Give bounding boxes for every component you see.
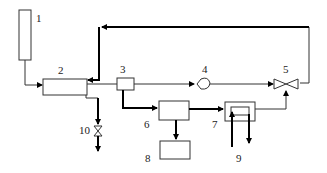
component-5-valve-icon-right [286,79,298,89]
recycle-line-5-to-top [300,27,309,83]
line-7-to-5 [255,91,286,109]
label-6: 6 [144,118,150,130]
component-6-box [159,101,189,120]
process-diagram: 1 2 3 4 5 6 8 7 9 10 [0,0,327,173]
line-3-to-6 [123,90,157,108]
component-10-valve-icon-lower [94,131,102,136]
label-8: 8 [145,152,151,164]
component-3-box [117,78,134,90]
label-4: 4 [202,63,208,75]
component-5-valve-icon [274,79,286,89]
label-3: 3 [120,63,126,75]
component-8-box [160,141,190,159]
component-1-column [19,10,31,60]
line-2-to-10 [86,95,98,98]
label-1: 1 [36,12,42,24]
label-7: 7 [212,118,218,130]
recycle-line-down-to-2 [88,27,99,80]
label-9: 9 [236,152,242,164]
component-4-pump-icon [197,78,210,89]
label-10: 10 [79,124,91,136]
label-5: 5 [283,63,289,75]
label-2: 2 [58,64,64,76]
component-2-box [43,79,87,95]
component-7-box [225,102,255,121]
line-1-to-2 [25,60,42,85]
